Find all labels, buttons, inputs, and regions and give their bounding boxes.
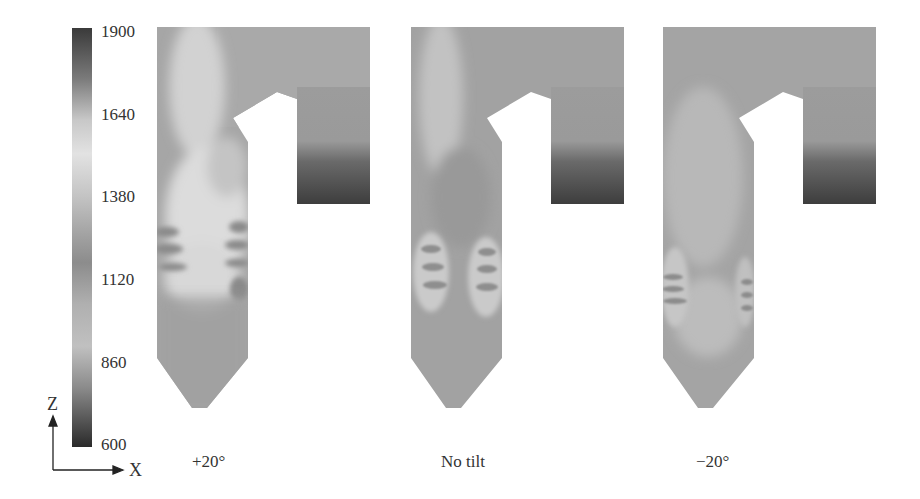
colorbar-tick-860: 860: [101, 353, 127, 373]
panel-plus20: [155, 17, 377, 417]
panel-minus20: [661, 27, 883, 417]
z-axis-label: Z: [47, 394, 58, 415]
colorbar-tick-1900: 1900: [101, 22, 135, 42]
colorbar-tick-600: 600: [101, 435, 127, 455]
panel-label-no-tilt: No tilt: [441, 452, 485, 472]
panel-no-tilt: [411, 17, 631, 417]
x-axis-label: X: [129, 460, 142, 481]
colorbar-tick-1120: 1120: [101, 270, 134, 290]
panel-label-minus20: −20°: [696, 452, 729, 472]
colorbar-tick-1380: 1380: [101, 187, 135, 207]
colorbar: [72, 28, 92, 447]
figure-canvas: [0, 0, 920, 499]
panel-label-plus20: +20°: [192, 452, 225, 472]
colorbar-tick-1640: 1640: [101, 105, 135, 125]
